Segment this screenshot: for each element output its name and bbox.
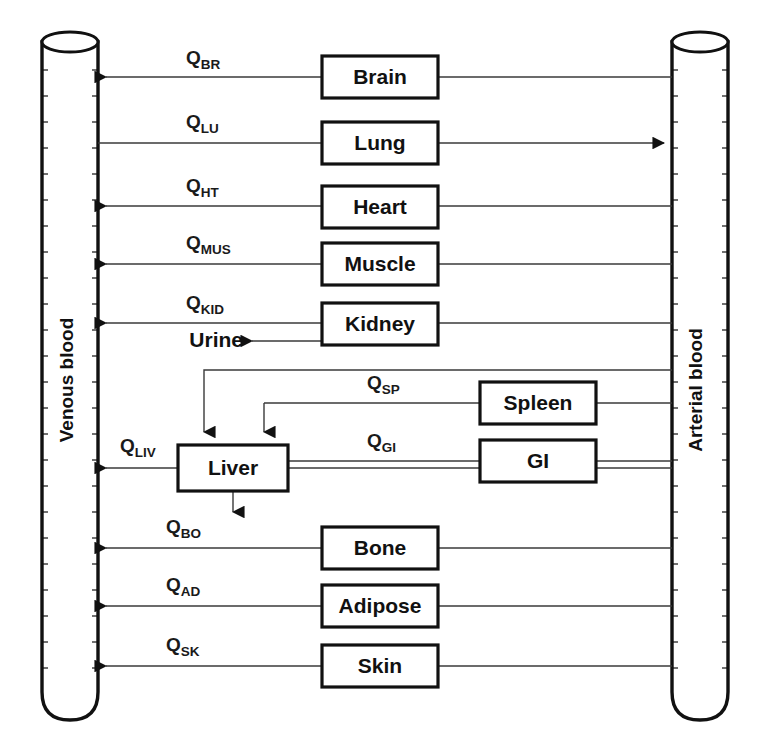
flow-label-q-mus: QMUS	[186, 232, 231, 257]
organ-box-brain[interactable]: Brain	[322, 56, 438, 98]
heart-label: Heart	[353, 195, 407, 218]
venous-blood-label: Venous blood	[56, 318, 77, 443]
flow-label-q-lu: QLU	[186, 111, 219, 136]
flow-subscript-lu: LU	[201, 121, 219, 136]
organ-box-muscle[interactable]: Muscle	[322, 243, 438, 285]
pbpk-diagram: Venous blood	[0, 0, 770, 752]
kidney-label: Kidney	[345, 312, 415, 335]
flow-hepatic-artery-to-liver	[204, 370, 672, 432]
flow-symbol-q-sk: Q	[166, 634, 181, 655]
flow-label-q-liv: QLIV	[120, 435, 156, 460]
organ-box-spleen[interactable]: Spleen	[480, 382, 596, 424]
flow-subscript-ad: AD	[181, 584, 201, 599]
flow-subscript-sk: SK	[181, 644, 200, 659]
organ-box-lung[interactable]: Lung	[322, 122, 438, 164]
venous-return-lines	[98, 77, 322, 666]
organ-box-gi[interactable]: GI	[480, 440, 596, 482]
flow-label-q-sp: QSP	[367, 372, 400, 397]
urine-label: Urine	[189, 328, 243, 351]
arterial-vessel-top-cap	[672, 32, 728, 52]
gi-label: GI	[527, 449, 549, 472]
flow-subscript-sp: SP	[382, 382, 400, 397]
flow-label-q-br: QBR	[186, 47, 221, 72]
bone-label: Bone	[354, 536, 407, 559]
flow-symbol-q-lu: Q	[186, 111, 201, 132]
flow-symbol-q-bo: Q	[166, 516, 181, 537]
organ-box-heart[interactable]: Heart	[322, 186, 438, 228]
organ-box-liver[interactable]: Liver	[178, 445, 288, 491]
flow-subscript-ht: HT	[201, 185, 220, 200]
organ-box-skin[interactable]: Skin	[322, 645, 438, 687]
brain-label: Brain	[353, 65, 407, 88]
spleen-label: Spleen	[504, 391, 573, 414]
flow-label-q-gi: QGI	[367, 430, 396, 455]
flow-label-q-kid: QKID	[186, 292, 224, 317]
adipose-label: Adipose	[339, 594, 422, 617]
organ-boxes: Brain Lung Heart Muscle Kidney Spleen	[178, 56, 596, 687]
organ-box-kidney[interactable]: Kidney	[322, 303, 438, 345]
flow-subscript-liv: LIV	[135, 445, 156, 460]
flow-symbol-q-mus: Q	[186, 232, 201, 253]
flow-subscript-mus: MUS	[201, 242, 231, 257]
flow-label-q-bo: QBO	[166, 516, 201, 541]
skin-label: Skin	[358, 654, 402, 677]
lung-label: Lung	[354, 131, 405, 154]
muscle-label: Muscle	[344, 252, 415, 275]
flow-symbol-q-kid: Q	[186, 292, 201, 313]
organ-box-bone[interactable]: Bone	[322, 527, 438, 569]
flow-symbol-q-sp: Q	[367, 372, 382, 393]
venous-vessel-top-cap	[42, 32, 98, 52]
venous-blood-vessel: Venous blood	[42, 32, 98, 720]
flow-symbol-q-liv: Q	[120, 435, 135, 456]
liver-label: Liver	[208, 456, 258, 479]
flow-subscript-gi: GI	[382, 440, 396, 455]
flow-symbol-q-ht: Q	[186, 175, 201, 196]
arterial-blood-vessel: Arterial blood	[672, 32, 728, 720]
arterial-blood-label: Arterial blood	[685, 328, 706, 452]
flow-subscript-kid: KID	[201, 302, 225, 317]
flow-label-q-ad: QAD	[166, 574, 201, 599]
pbpk-diagram-canvas: Venous blood	[0, 0, 770, 752]
flow-symbol-q-gi: Q	[367, 430, 382, 451]
flow-label-q-sk: QSK	[166, 634, 200, 659]
flow-subscript-br: BR	[201, 57, 221, 72]
organ-box-adipose[interactable]: Adipose	[322, 585, 438, 627]
flow-symbol-q-br: Q	[186, 47, 201, 68]
excretion-labels: Urine	[189, 328, 243, 351]
flow-symbol-q-ad: Q	[166, 574, 181, 595]
flow-subscript-bo: BO	[181, 526, 201, 541]
flow-label-q-ht: QHT	[186, 175, 220, 200]
